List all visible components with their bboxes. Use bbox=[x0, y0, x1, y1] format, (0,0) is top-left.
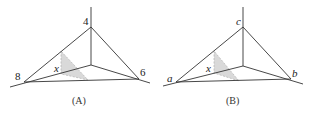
label-right: b bbox=[292, 67, 298, 79]
panel-b: c a b x (B) bbox=[163, 7, 303, 107]
label-top: 4 bbox=[83, 15, 89, 27]
label-slice: x bbox=[205, 62, 211, 74]
label-left: 8 bbox=[15, 70, 21, 82]
caption-a: (A) bbox=[72, 95, 86, 107]
edge-top-right bbox=[243, 27, 291, 79]
diagram-canvas: 4 8 6 x (A) c a b x (B) bbox=[0, 0, 313, 116]
edge-left-right bbox=[24, 79, 139, 82]
label-right: 6 bbox=[140, 66, 146, 78]
panel-a: 4 8 6 x (A) bbox=[10, 7, 150, 107]
shaded-cross-section bbox=[61, 51, 88, 80]
caption-b: (B) bbox=[226, 95, 239, 107]
shaded-cross-section bbox=[214, 51, 239, 81]
label-slice: x bbox=[53, 62, 59, 74]
label-top: c bbox=[236, 15, 241, 27]
label-left: a bbox=[167, 72, 173, 84]
edge-top-right bbox=[91, 27, 139, 79]
